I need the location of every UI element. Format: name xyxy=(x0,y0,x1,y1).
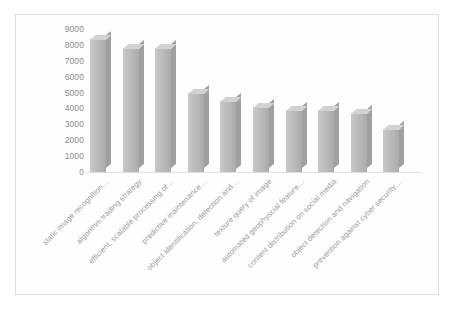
chart-figure: 9000800070006000500040003000200010000 st… xyxy=(15,14,439,295)
x-axis-category-labels: static image recognition…algorithm tradi… xyxy=(16,15,439,295)
plot-area: 9000800070006000500040003000200010000 st… xyxy=(16,15,439,295)
x-axis-category-label: static image recognition… xyxy=(15,177,110,295)
